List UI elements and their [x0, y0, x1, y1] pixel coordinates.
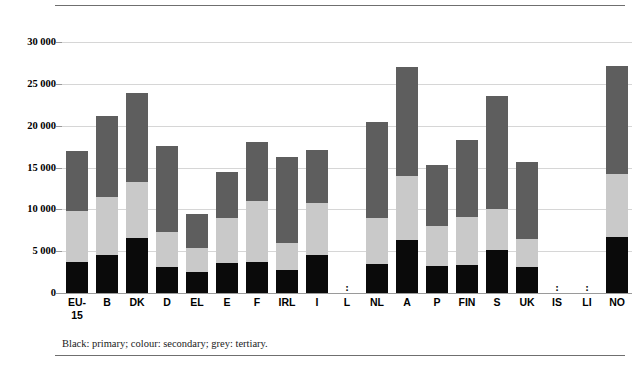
bar-s[interactable]: [486, 42, 508, 293]
y-axis-tick-label: 10 000: [4, 204, 56, 214]
bar-segment-secondary: [126, 182, 148, 238]
bar-p[interactable]: [426, 42, 448, 293]
chart-figure: 05 00010 00015 00020 00025 00030 000 :::…: [0, 0, 640, 371]
bar-segment-primary: [216, 263, 238, 293]
x-axis-tick-label: D: [150, 296, 184, 309]
x-axis-tick-label: EL: [180, 296, 214, 309]
figure-bottom-rule: [55, 355, 625, 356]
bar-li[interactable]: :: [576, 42, 598, 293]
bar-segment-primary: [126, 238, 148, 293]
x-axis-tick-label: DK: [120, 296, 154, 309]
y-axis-tick-label: 30 000: [4, 37, 56, 47]
gridline-0: [62, 293, 632, 294]
bar-segment-secondary: [246, 201, 268, 262]
bar-segment-tertiary: [396, 67, 418, 176]
bar-i[interactable]: [306, 42, 328, 293]
x-axis-tick-label: F: [240, 296, 274, 309]
bar-e[interactable]: [216, 42, 238, 293]
x-axis-tick-label: UK: [510, 296, 544, 309]
bar-el[interactable]: [186, 42, 208, 293]
bar-d[interactable]: [156, 42, 178, 293]
bar-segment-tertiary: [366, 122, 388, 217]
bar-segment-secondary: [156, 232, 178, 267]
y-axis-tick-label: 20 000: [4, 121, 56, 131]
x-axis-tick-label: P: [420, 296, 454, 309]
y-axis-tick-label: 15 000: [4, 163, 56, 173]
bar-segment-primary: [426, 266, 448, 293]
bar-segment-tertiary: [426, 165, 448, 226]
x-axis-tick-label: S: [480, 296, 514, 309]
bar-segment-primary: [516, 267, 538, 293]
x-axis-tick-label: LI: [570, 296, 604, 309]
bar-segment-tertiary: [486, 96, 508, 209]
bar-segment-primary: [306, 255, 328, 293]
bar-segment-tertiary: [606, 66, 628, 174]
bar-segment-secondary: [276, 243, 298, 270]
bar-uk[interactable]: [516, 42, 538, 293]
x-axis-tick-label: B: [90, 296, 124, 309]
bar-segment-secondary: [216, 218, 238, 263]
bar-segment-tertiary: [276, 157, 298, 242]
bar-segment-primary: [156, 267, 178, 293]
bar-segment-tertiary: [516, 162, 538, 239]
x-axis-tick-label: EU- 15: [60, 296, 94, 322]
bar-segment-primary: [96, 255, 118, 293]
bar-segment-tertiary: [456, 140, 478, 217]
bar-segment-secondary: [456, 217, 478, 265]
bar-no[interactable]: [606, 42, 628, 293]
bar-irl[interactable]: [276, 42, 298, 293]
bar-segment-primary: [396, 240, 418, 293]
bar-segment-tertiary: [306, 150, 328, 203]
bar-b[interactable]: [96, 42, 118, 293]
bar-segment-secondary: [186, 248, 208, 272]
bar-segment-secondary: [366, 218, 388, 264]
bar-segment-primary: [276, 270, 298, 293]
x-axis-tick-label: A: [390, 296, 424, 309]
y-axis: 05 00010 00015 00020 00025 00030 000: [0, 42, 56, 293]
bar-segment-secondary: [606, 174, 628, 237]
bar-segment-primary: [186, 272, 208, 293]
bar-segment-secondary: [486, 209, 508, 250]
x-axis: EU- 15BDKDELEFIRLILNLAPFINSUKISLINO: [62, 296, 632, 336]
bar-segment-primary: [366, 264, 388, 293]
bar-segment-secondary: [426, 226, 448, 266]
bar-is[interactable]: :: [546, 42, 568, 293]
x-axis-tick-label: NO: [600, 296, 634, 309]
x-axis-tick-label: L: [330, 296, 364, 309]
x-axis-tick-label: NL: [360, 296, 394, 309]
bar-segment-tertiary: [96, 116, 118, 197]
bar-segment-primary: [606, 237, 628, 293]
bar-segment-tertiary: [156, 146, 178, 232]
bar-segment-primary: [486, 250, 508, 293]
x-axis-tick-label: E: [210, 296, 244, 309]
bar-f[interactable]: [246, 42, 268, 293]
bar-segment-tertiary: [216, 172, 238, 218]
x-axis-tick-label: I: [300, 296, 334, 309]
x-axis-tick-label: IRL: [270, 296, 304, 309]
bar-segment-tertiary: [186, 214, 208, 248]
bar-dk[interactable]: [126, 42, 148, 293]
bar-segment-primary: [456, 265, 478, 293]
bar-a[interactable]: [396, 42, 418, 293]
bar-segment-secondary: [96, 197, 118, 255]
bar-fin[interactable]: [456, 42, 478, 293]
y-axis-tick-label: 5 000: [4, 246, 56, 256]
bar-nl[interactable]: [366, 42, 388, 293]
y-axis-tick-label: 0: [4, 288, 56, 298]
figure-top-rule: [55, 5, 625, 6]
bar-segment-tertiary: [246, 142, 268, 201]
bar-segment-tertiary: [126, 93, 148, 182]
bar-segment-primary: [66, 262, 88, 293]
bar-l[interactable]: :: [336, 42, 358, 293]
no-data-marker: :: [546, 282, 568, 293]
no-data-marker: :: [576, 282, 598, 293]
bar-segment-primary: [246, 262, 268, 293]
bar-eu-15[interactable]: [66, 42, 88, 293]
bar-segment-secondary: [66, 211, 88, 262]
y-axis-tick-label: 25 000: [4, 79, 56, 89]
bar-segment-secondary: [396, 176, 418, 240]
x-axis-tick-label: IS: [540, 296, 574, 309]
x-axis-tick-label: FIN: [450, 296, 484, 309]
chart-caption: Black: primary; colour: secondary; grey:…: [62, 338, 268, 350]
bar-segment-secondary: [306, 203, 328, 255]
